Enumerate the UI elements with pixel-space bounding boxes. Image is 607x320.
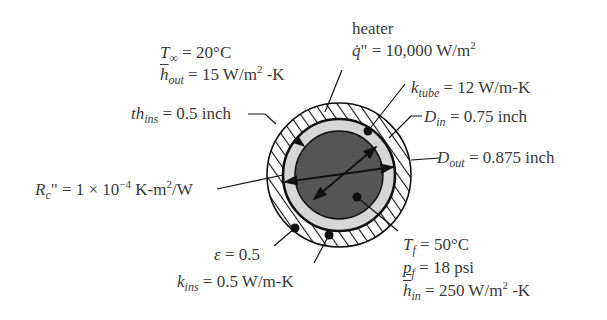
inner-diameter-label: Din = 0.75 inch	[424, 108, 527, 126]
inner-convection-coefficient-label: hin = 250 W/m2 -K	[403, 282, 530, 300]
heater-label: heater	[352, 20, 394, 38]
contact-resistance-label: Rc" = 1 × 10−4 K-m2/W	[35, 181, 193, 199]
fluid-temperature-label: Tf = 50°C	[403, 236, 469, 254]
insulation-thickness-label: thins = 0.5 inch	[131, 105, 231, 123]
ambient-temperature-label: T∞ = 20°C	[160, 44, 231, 62]
emissivity-label: ε = 0.5	[214, 246, 260, 264]
heat-flux-label: q̇" = 10,000 W/m2	[352, 42, 476, 60]
insulation-conductivity-label: kins = 0.5 W/m-K	[177, 273, 294, 291]
fluid-pressure-label: pf = 18 psi	[403, 259, 474, 277]
tube-conductivity-label: ktube = 12 W/m-K	[411, 79, 530, 97]
outer-diameter-label: Dout = 0.875 inch	[437, 149, 554, 167]
outer-convection-coefficient-label: hout = 15 W/m2 -K	[160, 66, 285, 84]
